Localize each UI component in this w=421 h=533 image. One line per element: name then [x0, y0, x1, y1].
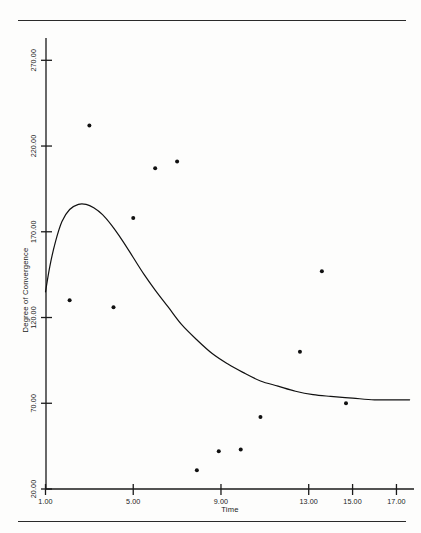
y-tick-label: 70.00 [29, 394, 38, 413]
y-tick-label: 170.00 [29, 220, 38, 243]
x-tick-label: 13.00 [299, 497, 318, 506]
figure-container: 20.0070.00120.00170.00220.00270.00 1.005… [0, 0, 421, 533]
x-tick-label: 1.00 [38, 497, 52, 506]
data-point [320, 269, 324, 273]
data-point [112, 305, 116, 309]
y-tick-label: 120.00 [29, 306, 38, 329]
data-point-markers [68, 123, 348, 472]
data-point [217, 449, 221, 453]
y-axis-title: Degree of Convergence [21, 248, 30, 333]
x-tick-label: 17.00 [387, 497, 406, 506]
data-point [239, 448, 243, 452]
data-point [87, 123, 91, 127]
data-point [344, 401, 348, 405]
data-point [258, 415, 262, 419]
y-axis-tick-labels: 20.0070.00120.00170.00220.00270.00 [29, 49, 38, 498]
data-point [68, 298, 72, 302]
y-tick-label: 220.00 [29, 135, 38, 158]
data-point [298, 350, 302, 354]
data-point [153, 166, 157, 170]
data-point [131, 216, 135, 220]
x-tick-label: 15.00 [343, 497, 362, 506]
x-tick-label: 5.00 [126, 497, 140, 506]
y-tick-label: 270.00 [29, 49, 38, 72]
y-tick-label: 20.00 [29, 480, 38, 499]
data-point [175, 159, 179, 163]
fitted-curve-line [46, 204, 410, 400]
data-point [195, 468, 199, 472]
scatter-plot: 20.0070.00120.00170.00220.00270.00 1.005… [0, 0, 421, 533]
x-axis-title: Time [221, 505, 238, 514]
